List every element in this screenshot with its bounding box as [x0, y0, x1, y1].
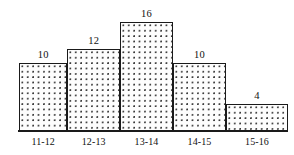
x-axis-line [18, 130, 288, 132]
bar-13-14 [120, 22, 173, 131]
bar-14-15 [173, 63, 226, 131]
histogram-chart: 10 12 16 10 4 11-12 12-13 13-14 14-15 15… [0, 0, 294, 155]
bar-value-13-14: 16 [120, 8, 173, 19]
bar-value-12-13: 12 [67, 35, 120, 46]
bar-value-14-15: 10 [173, 49, 226, 60]
bar-value-15-16: 4 [226, 90, 288, 101]
bar-15-16 [226, 104, 288, 131]
x-tick-label-14-15: 14-15 [173, 136, 226, 147]
x-tick-label-11-12: 11-12 [19, 136, 67, 147]
x-tick-label-13-14: 13-14 [120, 136, 173, 147]
x-tick-label-15-16: 15-16 [226, 136, 288, 147]
plot-area: 10 12 16 10 4 11-12 12-13 13-14 14-15 15… [0, 0, 294, 155]
x-tick-label-12-13: 12-13 [67, 136, 120, 147]
bar-11-12 [19, 63, 67, 131]
bar-12-13 [67, 49, 120, 131]
bar-value-11-12: 10 [19, 49, 67, 60]
